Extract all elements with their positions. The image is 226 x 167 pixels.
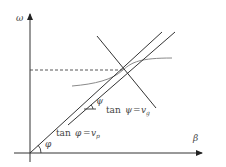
phase-var: φ — [75, 128, 82, 138]
group-velocity-line — [68, 32, 175, 125]
group-var: ψ — [125, 105, 133, 115]
group-eq: = — [133, 105, 141, 115]
crossing-line — [97, 36, 156, 108]
dispersion-diagram: ω β φ tan φ = v p ψ tan ψ = v g — [0, 0, 226, 167]
phase-relation-label: tan φ = v p — [56, 128, 100, 140]
phase-sub: p — [96, 132, 100, 140]
y-axis-label: ω — [16, 13, 24, 23]
dispersion-curve — [72, 58, 172, 86]
psi-angle-label: ψ — [96, 96, 104, 106]
phi-angle-label: φ — [45, 139, 52, 149]
phase-tan: tan — [56, 128, 71, 138]
x-axis-label: β — [192, 133, 198, 143]
group-sub: g — [146, 109, 150, 117]
phase-eq: = — [83, 128, 91, 138]
group-relation-label: tan ψ = v g — [106, 105, 150, 117]
phi-angle-arc — [38, 145, 41, 153]
group-tan: tan — [106, 105, 121, 115]
